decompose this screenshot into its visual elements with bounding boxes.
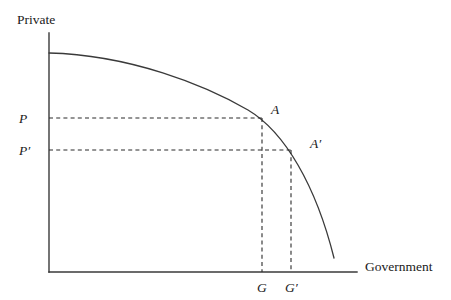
x-tick-label-g-prime: G′ [285, 280, 299, 295]
y-tick-label-p: P [18, 111, 27, 126]
x-tick-label-g: G [257, 280, 267, 295]
y-tick-label-p-prime: P′ [18, 143, 31, 158]
y-axis-title: Private [17, 12, 55, 27]
point-a-label: A [270, 102, 280, 117]
ppf-svg: Private Government A A′ P P′ G G′ [0, 0, 451, 300]
ppf-figure: Private Government A A′ P P′ G G′ [0, 0, 451, 300]
point-a-prime-label: A′ [309, 136, 322, 151]
x-axis-title: Government [365, 259, 433, 274]
ppf-curve [49, 53, 334, 258]
